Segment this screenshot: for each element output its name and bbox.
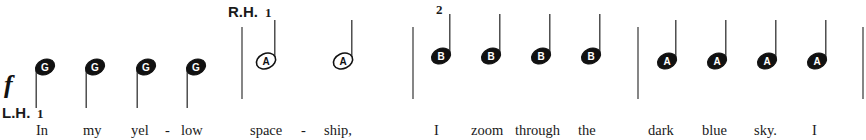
dynamic-forte: f	[4, 70, 15, 99]
note-a-quarter: A	[655, 20, 679, 72]
note-a-half: A	[254, 20, 278, 72]
note-a-quarter: A	[705, 20, 729, 72]
lyric-syllable: the	[578, 122, 596, 138]
note-name-label: A	[763, 56, 770, 67]
lyric-hyphen: -	[301, 122, 306, 138]
measure-3-finger-number: 2	[436, 2, 443, 17]
note-name-label: B	[487, 51, 494, 62]
note-a-quarter: A	[755, 20, 779, 72]
note-name-label: B	[437, 51, 444, 62]
note-name-label: G	[41, 62, 49, 73]
note-g-quarter: G	[33, 56, 57, 108]
lyric-syllable: dark	[648, 122, 675, 138]
lyric-syllable: I	[812, 122, 817, 138]
note-name-label: A	[813, 56, 820, 67]
lyrics-line: In my yel - low space - ship, I zoom thr…	[36, 122, 817, 138]
note-b-quarter: B	[429, 14, 453, 67]
note-g-quarter: G	[184, 56, 208, 108]
note-b-quarter: B	[529, 14, 553, 67]
note-name-label: B	[587, 51, 594, 62]
note-name-label: A	[663, 56, 670, 67]
lyric-syllable: yel	[131, 122, 149, 138]
note-name-label: A	[262, 56, 269, 67]
note-name-label: G	[192, 62, 200, 73]
lyric-syllable: low	[181, 122, 203, 138]
note-b-quarter: B	[579, 14, 603, 67]
note-a-quarter: A	[805, 20, 829, 72]
lyric-syllable: zoom	[471, 122, 504, 138]
lyric-syllable: I	[434, 122, 439, 138]
note-name-label: A	[713, 56, 720, 67]
notes-layer: GGGGAABBBBAAAA	[33, 14, 829, 108]
left-hand-finger-number: 1	[37, 106, 44, 121]
note-name-label: B	[537, 51, 544, 62]
left-hand-label: L.H.	[2, 104, 30, 121]
note-b-quarter: B	[479, 14, 503, 67]
lyric-syllable: my	[83, 122, 102, 138]
lyric-syllable: blue	[702, 122, 727, 138]
note-g-quarter: G	[134, 56, 158, 108]
right-hand-label: R.H.	[228, 3, 258, 20]
right-hand-finger-number: 1	[265, 5, 272, 20]
note-a-half: A	[331, 20, 355, 72]
lyric-syllable: space	[250, 122, 282, 138]
lyric-syllable: ship,	[324, 122, 352, 138]
note-g-quarter: G	[83, 56, 107, 108]
lyric-syllable: through	[515, 122, 561, 138]
lyric-hyphen: -	[165, 122, 170, 138]
note-name-label: G	[91, 62, 99, 73]
note-name-label: A	[339, 56, 346, 67]
lyric-syllable: In	[36, 122, 49, 138]
note-name-label: G	[142, 62, 150, 73]
music-score: f L.H. 1 R.H. 1 2 GGGGAABBBBAAAA In my y…	[0, 0, 866, 140]
lyric-syllable: sky.	[754, 122, 777, 138]
